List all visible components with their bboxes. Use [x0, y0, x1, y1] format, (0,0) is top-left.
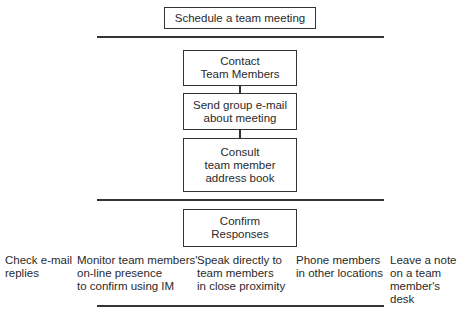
confirm-box: Confirm Responses: [183, 209, 297, 247]
divider-middle: [97, 199, 384, 201]
divider-bottom: [97, 305, 384, 307]
option-check-email: Check e-mail replies: [5, 254, 72, 280]
option-leave-note: Leave a note on a team member's desk: [390, 254, 460, 306]
option-phone-members: Phone members in other locations: [296, 254, 383, 280]
option-speak-directly: Speak directly to team members in close …: [197, 254, 285, 293]
confirm-label: Confirm Responses: [211, 215, 269, 241]
connector-2: [239, 130, 241, 138]
divider-top: [97, 36, 384, 38]
goal-box: Schedule a team meeting: [164, 7, 316, 29]
step-contact-box: Contact Team Members: [183, 50, 297, 86]
step-consult-box: Consult team member address book: [183, 138, 297, 192]
step-consult-label: Consult team member address book: [205, 146, 276, 185]
step-contact-label: Contact Team Members: [200, 55, 279, 81]
goal-label: Schedule a team meeting: [175, 12, 305, 25]
step-send-email-label: Send group e-mail about meeting: [193, 99, 287, 125]
step-send-email-box: Send group e-mail about meeting: [183, 93, 297, 130]
connector-1: [239, 86, 241, 93]
option-monitor-im: Monitor team members' on-line presence t…: [77, 254, 197, 293]
